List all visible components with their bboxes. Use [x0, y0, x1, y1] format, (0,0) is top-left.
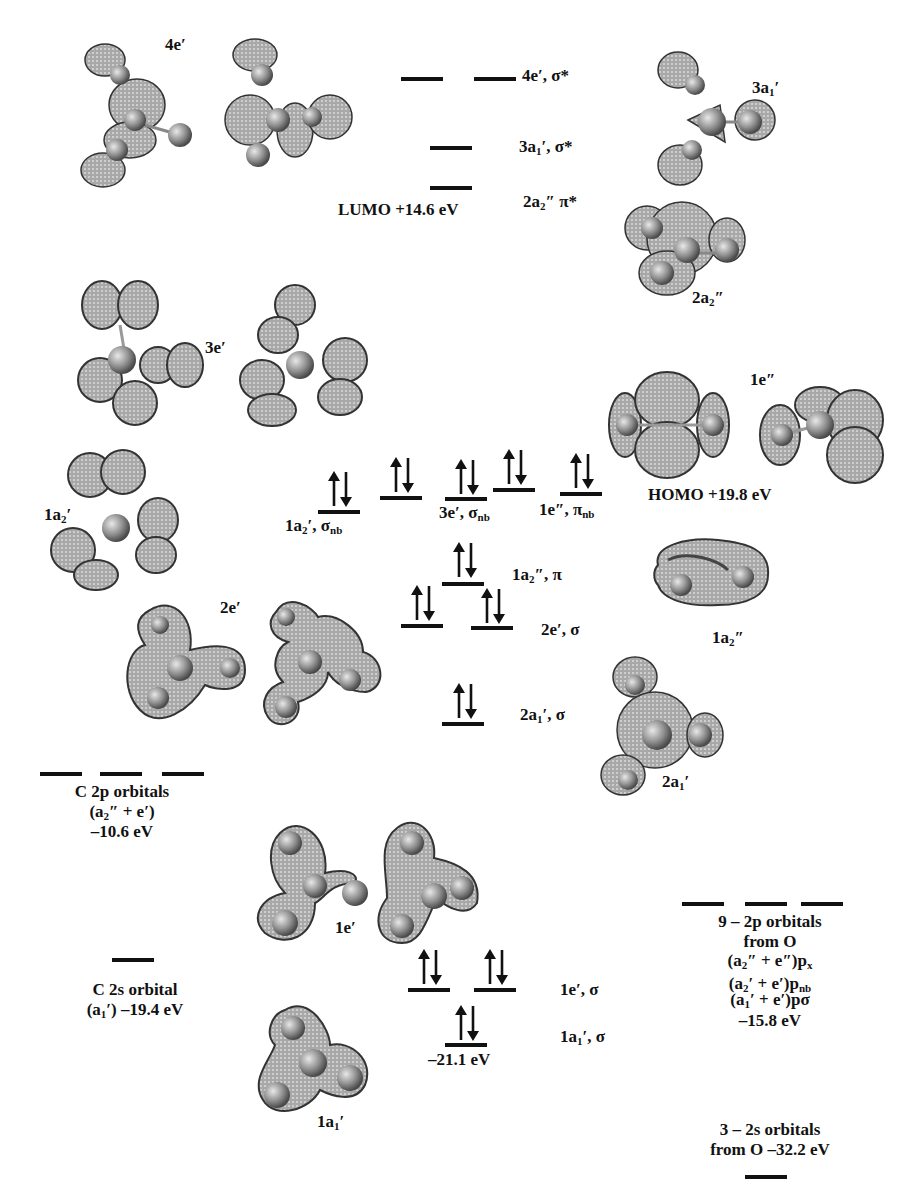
electron-pair-icon	[387, 456, 417, 494]
orbital-image-2e-right	[258, 592, 388, 732]
label-1a2pp-pi: 1a2″, π	[512, 565, 562, 586]
label-2e-sigma: 2e′, σ	[541, 620, 580, 640]
orbital-label-1a1: 1a1′	[317, 1112, 344, 1132]
level-2e-b	[471, 626, 513, 630]
level-o2s	[745, 1175, 787, 1179]
level-1e-a	[408, 988, 450, 992]
orbital-label-3e: 3e′	[205, 338, 226, 358]
orbital-image-3e-right	[240, 285, 370, 425]
orbital-image-4e-left	[75, 35, 195, 185]
label-o2p: 9 – 2p orbitals from O (a2″ + e″)px (a2′…	[690, 912, 850, 1031]
level-c2s	[112, 958, 154, 962]
orbital-label-3a1: 3a1′	[752, 78, 779, 98]
label-lumo: LUMO +14.6 eV	[338, 200, 459, 220]
electron-pair-icon	[452, 1004, 482, 1042]
orbital-image-2a1	[595, 655, 725, 795]
orbital-image-2a2	[622, 198, 752, 298]
orbital-label-2e: 2e′	[220, 598, 241, 618]
electron-pair-icon	[567, 452, 597, 490]
level-1a2pp-pi	[442, 582, 484, 586]
label-o2s: 3 – 2s orbitals from O –32.2 eV	[690, 1120, 850, 1159]
level-o2p-3	[801, 902, 843, 906]
level-1a2-sigma-nb	[318, 510, 360, 514]
level-4e-right	[474, 77, 516, 81]
label-c2p: C 2p orbitals (a2″ + e′) –10.6 eV	[40, 782, 204, 842]
level-3e-a	[380, 496, 422, 500]
label-3e-sigma-nb: 3e′, σnb	[439, 503, 490, 524]
label-2a1-sigma: 2a1′, σ	[520, 705, 565, 726]
level-4e-left	[401, 77, 443, 81]
level-3a1	[430, 146, 472, 150]
level-c2p-3	[162, 772, 204, 776]
level-1e2-b	[560, 492, 602, 496]
orbital-image-3a1	[650, 50, 780, 190]
electron-pair-icon	[450, 541, 480, 579]
level-1e2-a	[493, 488, 535, 492]
level-c2p-1	[40, 772, 82, 776]
electron-pair-icon	[452, 458, 482, 496]
label-2a2-pi-star: 2a2″ π*	[523, 192, 577, 213]
orbital-label-2a1: 2a1′	[662, 772, 689, 792]
orbital-label-1a2: 1a2′	[44, 505, 71, 525]
orbital-image-1e-left	[255, 818, 375, 948]
level-3e-b	[445, 497, 487, 501]
orbital-label-1a2pp: 1a2″	[712, 628, 744, 648]
label-3a1-sigma-star: 3a1′, σ*	[519, 137, 573, 158]
label-1e2-pi-nb: 1e″, πnb	[539, 500, 595, 521]
level-c2p-2	[100, 772, 142, 776]
label-1a2-sigma-nb: 1a2′, σnb	[285, 516, 342, 537]
level-2a2-lumo	[430, 186, 472, 190]
level-1e-b	[474, 988, 516, 992]
orbital-image-1e-right	[372, 818, 492, 948]
level-2e-a	[401, 624, 443, 628]
label-1e-sigma: 1e′, σ	[560, 980, 599, 1000]
orbital-label-4e: 4e′	[165, 35, 186, 55]
electron-pair-icon	[500, 448, 530, 486]
label-4e-sigma-star: 4e′, σ*	[522, 66, 569, 86]
electron-pair-icon	[415, 948, 445, 986]
electron-pair-icon	[481, 948, 511, 986]
orbital-image-3e-left	[80, 285, 205, 425]
electron-pair-icon	[450, 682, 480, 720]
level-1a1-sigma	[445, 1043, 487, 1047]
orbital-image-1e2-right	[755, 385, 885, 485]
electron-pair-icon	[325, 470, 355, 508]
orbital-label-2a2: 2a2″	[692, 288, 724, 308]
electron-pair-icon	[408, 584, 438, 622]
label-1a1-sigma: 1a1′, σ	[560, 1027, 605, 1048]
label-lowest-energy: –21.1 eV	[428, 1050, 490, 1070]
level-o2p-2	[745, 902, 787, 906]
orbital-label-1e: 1e′	[335, 918, 356, 938]
label-homo: HOMO +19.8 eV	[648, 485, 771, 505]
electron-pair-icon	[478, 587, 508, 625]
label-c2s: C 2s orbital (a1′) –19.4 eV	[60, 980, 210, 1020]
orbital-image-4e-right	[220, 35, 355, 185]
level-2a1-sigma	[442, 722, 484, 726]
level-o2p-1	[682, 902, 724, 906]
orbital-image-1a1	[255, 1000, 375, 1120]
orbital-image-1a2pp	[648, 535, 773, 615]
orbital-image-1e2-left	[605, 370, 735, 480]
